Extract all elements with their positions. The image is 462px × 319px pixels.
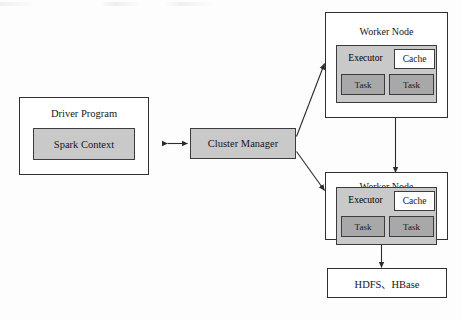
task-box-bottom-2: Task bbox=[389, 216, 434, 237]
executor-label-bottom: Executor bbox=[337, 195, 394, 205]
cache-box-bottom: Cache bbox=[394, 191, 435, 211]
connector-cluster-manager-worker-bottom bbox=[297, 152, 325, 191]
scan-artifact bbox=[0, 2, 250, 6]
connector-cluster-manager-worker-top bbox=[297, 64, 325, 137]
driver-program-label: Driver Program bbox=[20, 109, 148, 120]
cluster-manager-label: Cluster Manager bbox=[208, 138, 278, 149]
task-box-top-1: Task bbox=[341, 74, 385, 95]
cache-box-top: Cache bbox=[394, 49, 435, 69]
cluster-manager-box: Cluster Manager bbox=[190, 128, 296, 159]
cache-label-bottom: Cache bbox=[403, 196, 427, 206]
storage-box: HDFS、HBase bbox=[327, 268, 447, 298]
task-box-top-2: Task bbox=[389, 74, 434, 95]
executor-panel-top: Executor Cache Task Task bbox=[336, 45, 437, 103]
executor-label-top: Executor bbox=[337, 53, 394, 63]
executor-panel-bottom: Executor Cache Task Task bbox=[336, 187, 437, 245]
storage-label: HDFS、HBase bbox=[355, 276, 420, 291]
task-label-top-2: Task bbox=[403, 80, 420, 90]
spark-architecture-diagram: Cluster Manager --> top Worker Node --> … bbox=[0, 0, 462, 319]
task-label-bottom-1: Task bbox=[355, 222, 372, 232]
cache-label-top: Cache bbox=[403, 54, 427, 64]
worker-node-top-label: Worker Node bbox=[326, 27, 447, 37]
task-label-top-1: Task bbox=[355, 80, 372, 90]
task-label-bottom-2: Task bbox=[403, 222, 420, 232]
task-box-bottom-1: Task bbox=[341, 216, 385, 237]
spark-context-box: Spark Context bbox=[33, 128, 135, 160]
spark-context-label: Spark Context bbox=[54, 139, 114, 150]
